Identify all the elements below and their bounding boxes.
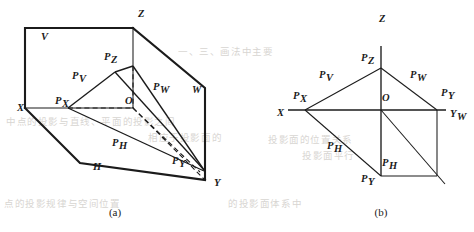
diagram-a-labels: X Y Z V H W PZ PV PW PX O PH PY — [16, 8, 222, 188]
figure-canvas: X Y Z V H W PZ PV PW PX O PH PY (a) — [0, 0, 474, 232]
label-point-ph2-b: PH — [382, 157, 398, 171]
label-plane-v-a: V — [41, 31, 49, 42]
label-x-axis-a: X — [16, 102, 25, 113]
label-point-pw-a: PW — [153, 81, 170, 95]
label-point-o-a: O — [125, 95, 133, 106]
line-px-ph-b — [305, 110, 381, 176]
label-point-px-b: PX — [293, 90, 308, 104]
label-point-pz-b: PZ — [361, 52, 375, 66]
caption-b: (b) — [375, 206, 388, 219]
label-point-pv-b: PV — [319, 69, 334, 83]
label-point-ph-a: PH — [112, 137, 128, 151]
label-x-axis-b: X — [276, 107, 285, 118]
label-point-pv-a: PV — [72, 70, 87, 84]
label-point-px-a: PX — [55, 95, 70, 109]
label-point-o-b: O — [382, 92, 390, 103]
line-o-diagonal-b — [381, 110, 445, 184]
line-pz-pw-b — [381, 68, 437, 110]
line-px-pz-b — [305, 68, 381, 110]
label-plane-w-a: W — [192, 84, 202, 95]
line-pv-pz — [115, 66, 133, 72]
label-point-pyw-b: PY — [441, 87, 456, 101]
diagram-b-group: X Z YW PZ PV PW PX O PY PH PH PY (b) — [276, 13, 467, 219]
line-o-py-dashed — [133, 108, 200, 172]
figure-root: 一、三、画法中主要中点的投影与直线、平面的投影之间相应于投影面的投影面的位置关系… — [0, 0, 474, 232]
label-z-axis-a: Z — [137, 8, 145, 19]
label-point-pz-a: PZ — [104, 51, 118, 65]
label-yw-axis-b: YW — [450, 108, 467, 122]
label-y-axis-a: Y — [214, 177, 222, 188]
label-point-py-a: PY — [172, 155, 187, 169]
label-plane-h-a: H — [92, 161, 102, 172]
label-z-axis-b: Z — [378, 13, 386, 24]
label-point-ph-b: PH — [327, 140, 343, 154]
diagram-b-labels: X Z YW PZ PV PW PX O PY PH PH PY — [276, 13, 467, 187]
diagram-a-group: X Y Z V H W PZ PV PW PX O PH PY (a) — [16, 8, 222, 219]
caption-a: (a) — [109, 206, 122, 219]
label-point-py-b: PY — [361, 173, 376, 187]
label-point-pw-b: PW — [410, 69, 427, 83]
